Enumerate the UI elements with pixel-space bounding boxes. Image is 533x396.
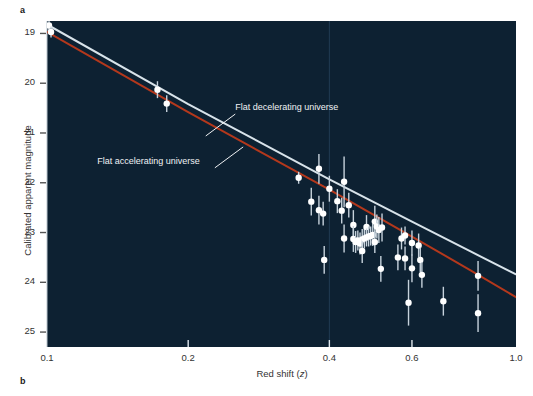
annotation-label-flat-accelerating-universe: Flat accelerating universe — [97, 156, 200, 166]
data-point-47 — [475, 310, 481, 316]
data-point-22 — [359, 248, 365, 254]
y-tick-label-20: 20 — [9, 76, 35, 87]
plot-canvas — [0, 0, 533, 396]
data-point-12 — [339, 207, 345, 213]
data-point-41 — [409, 265, 415, 271]
data-point-35 — [395, 254, 401, 260]
y-tick-label-22: 22 — [9, 176, 35, 187]
data-point-40 — [409, 240, 415, 246]
data-point-14 — [341, 179, 347, 185]
annotation-label-flat-decelerating-universe: Flat decelerating universe — [235, 102, 338, 112]
data-point-13 — [341, 235, 347, 241]
data-point-33 — [378, 266, 384, 272]
data-point-10 — [326, 186, 332, 192]
data-point-2 — [154, 86, 160, 92]
data-point-11 — [334, 198, 340, 204]
data-point-34 — [379, 224, 385, 230]
plot-background — [47, 21, 516, 347]
x-tick-label-0.4: 0.4 — [312, 352, 346, 363]
x-tick-label-0.1: 0.1 — [30, 352, 64, 363]
y-tick-label-24: 24 — [9, 275, 35, 286]
data-point-37 — [402, 232, 408, 238]
data-point-4 — [295, 175, 301, 181]
x-tick-label-1.0: 1.0 — [499, 352, 533, 363]
y-tick-label-23: 23 — [9, 226, 35, 237]
y-tick-label-25: 25 — [9, 325, 35, 336]
data-point-39 — [405, 300, 411, 306]
data-point-30 — [372, 239, 378, 245]
y-tick-label-21: 21 — [9, 126, 35, 137]
data-point-38 — [402, 255, 408, 261]
data-point-8 — [320, 210, 326, 216]
data-point-1 — [48, 29, 54, 35]
x-tick-label-0.6: 0.6 — [395, 352, 429, 363]
data-point-44 — [419, 272, 425, 278]
data-point-46 — [475, 273, 481, 279]
x-tick-label-0.2: 0.2 — [171, 352, 205, 363]
hubble-diagram-figure: a b Calibrated apparent magnitude Red sh… — [0, 0, 533, 396]
data-point-6 — [316, 166, 322, 172]
data-point-3 — [164, 100, 170, 106]
y-tick-label-19: 19 — [9, 26, 35, 37]
data-point-9 — [321, 257, 327, 263]
data-point-15 — [346, 202, 352, 208]
data-point-45 — [440, 298, 446, 304]
data-point-5 — [308, 198, 314, 204]
